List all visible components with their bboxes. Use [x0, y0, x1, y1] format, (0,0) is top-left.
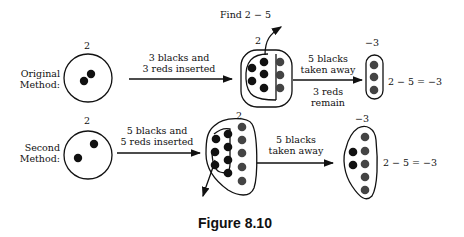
chips — [74, 58, 379, 195]
start-set-circle — [64, 131, 112, 179]
start-set-circle — [64, 54, 112, 102]
middle-set — [206, 119, 257, 195]
diagram-graphics — [0, 0, 464, 237]
result-set — [344, 127, 377, 199]
